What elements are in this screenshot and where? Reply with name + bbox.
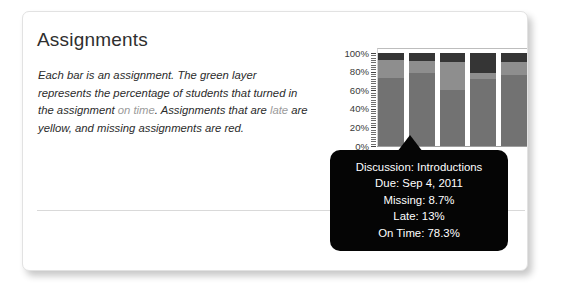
y-tick-minor bbox=[371, 111, 376, 112]
assignments-chart: 100%80%60%40%20%0% bbox=[333, 48, 527, 159]
bar-segment-ontime bbox=[501, 75, 527, 146]
tooltip-late-stat: Late: 13% bbox=[330, 208, 508, 224]
tooltip-due-date: Due: Sep 4, 2011 bbox=[330, 175, 508, 191]
y-tick-minor bbox=[371, 141, 376, 142]
bar-segment-missing bbox=[501, 53, 527, 62]
y-tick-major bbox=[371, 53, 376, 54]
y-tick-minor bbox=[371, 144, 376, 145]
y-tick-minor bbox=[371, 97, 376, 98]
y-tick-minor bbox=[371, 95, 376, 96]
y-tick-minor bbox=[371, 137, 376, 138]
tooltip-arrow-icon bbox=[397, 135, 423, 152]
y-tick-major bbox=[371, 127, 376, 128]
y-tick-minor bbox=[371, 60, 376, 61]
description-part-2: . Assignments that are bbox=[155, 104, 270, 116]
y-tick-minor bbox=[371, 139, 376, 140]
y-tick-minor bbox=[371, 100, 376, 101]
assignment-bar[interactable] bbox=[470, 53, 496, 146]
y-tick-label: 40% bbox=[350, 104, 369, 113]
y-axis-ticks bbox=[371, 53, 376, 146]
screenshot-stage: Assignments Each bar is an assignment. T… bbox=[0, 0, 561, 291]
bar-segment-missing bbox=[409, 53, 435, 61]
tooltip-missing-stat: Missing: 8.7% bbox=[330, 192, 508, 208]
bar-segment-late bbox=[409, 61, 435, 73]
bar-segment-missing bbox=[378, 53, 404, 60]
y-axis-labels: 100%80%60%40%20%0% bbox=[333, 48, 369, 159]
bar-segment-missing bbox=[470, 53, 496, 73]
y-tick-minor bbox=[371, 55, 376, 56]
y-tick-minor bbox=[371, 58, 376, 59]
y-tick-minor bbox=[371, 123, 376, 124]
y-tick-minor bbox=[371, 132, 376, 133]
bar-segment-ontime bbox=[470, 79, 496, 146]
y-tick-major bbox=[371, 90, 376, 91]
y-tick-minor bbox=[371, 76, 376, 77]
y-tick-minor bbox=[371, 74, 376, 75]
y-tick-major bbox=[371, 72, 376, 73]
y-tick-label: 80% bbox=[350, 67, 369, 76]
y-tick-minor bbox=[371, 134, 376, 135]
y-tick-minor bbox=[371, 86, 376, 87]
y-tick-minor bbox=[371, 79, 376, 80]
y-tick-minor bbox=[371, 65, 376, 66]
description-text: Each bar is an assignment. The green lay… bbox=[38, 67, 310, 137]
assignment-bar[interactable] bbox=[501, 53, 527, 146]
y-tick-major bbox=[371, 146, 376, 147]
tooltip-assignment-name: Discussion: Introductions bbox=[330, 159, 508, 175]
description-part-4: assignments are red. bbox=[135, 122, 244, 134]
y-tick-minor bbox=[371, 102, 376, 103]
y-tick-minor bbox=[371, 120, 376, 121]
y-tick-minor bbox=[371, 113, 376, 114]
description-ontime-highlight: on time bbox=[118, 104, 155, 116]
y-tick-minor bbox=[371, 116, 376, 117]
bar-segment-ontime bbox=[440, 90, 466, 146]
assignment-bar[interactable] bbox=[440, 53, 466, 146]
bar-group bbox=[378, 53, 527, 146]
y-tick-minor bbox=[371, 93, 376, 94]
assignment-bar[interactable] bbox=[378, 53, 404, 146]
y-tick-minor bbox=[371, 104, 376, 105]
bar-segment-late bbox=[440, 62, 466, 90]
y-tick-minor bbox=[371, 62, 376, 63]
y-tick-label: 60% bbox=[350, 86, 369, 95]
assignment-bar[interactable] bbox=[409, 53, 435, 146]
y-tick-minor bbox=[371, 83, 376, 84]
y-tick-minor bbox=[371, 88, 376, 89]
page-title: Assignments bbox=[37, 29, 148, 51]
description-missing-highlight: missing bbox=[97, 122, 135, 134]
tooltip-ontime-stat: On Time: 78.3% bbox=[330, 225, 508, 241]
description-late-highlight: late bbox=[270, 104, 288, 116]
y-tick-label: 20% bbox=[350, 123, 369, 132]
y-tick-minor bbox=[371, 69, 376, 70]
y-tick-minor bbox=[371, 81, 376, 82]
bar-segment-missing bbox=[440, 53, 466, 62]
y-tick-major bbox=[371, 109, 376, 110]
bar-segment-late bbox=[501, 62, 527, 75]
y-tick-minor bbox=[371, 67, 376, 68]
y-tick-minor bbox=[371, 106, 376, 107]
y-tick-minor bbox=[371, 125, 376, 126]
bar-segment-late bbox=[378, 60, 404, 78]
y-tick-label: 100% bbox=[344, 49, 369, 58]
y-tick-minor bbox=[371, 118, 376, 119]
assignment-tooltip: Discussion: Introductions Due: Sep 4, 20… bbox=[330, 150, 508, 251]
y-tick-minor bbox=[371, 130, 376, 131]
